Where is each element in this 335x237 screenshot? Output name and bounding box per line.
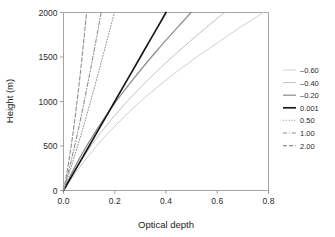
x-tick-label: 0.2 xyxy=(109,196,121,206)
legend-label-0.50: 0.50 xyxy=(300,116,315,125)
x-tick-label: 0.8 xyxy=(263,196,275,206)
y-tick-label: 1000 xyxy=(39,97,58,107)
y-tick-label: 2000 xyxy=(39,8,58,18)
y-tick-label: 500 xyxy=(43,141,57,151)
optical-depth-height-chart: 0.00.20.40.60.8 0500100015002000 Optical… xyxy=(0,0,335,237)
y-tick-label: 0 xyxy=(53,186,58,196)
y-tick-label: 1500 xyxy=(39,52,58,62)
legend-label--0.40: –0.40 xyxy=(300,79,319,88)
legend-label-0.001: 0.001 xyxy=(300,104,319,113)
x-axis-label: Optical depth xyxy=(138,219,194,230)
y-axis-label: Height (m) xyxy=(4,79,15,123)
chart-figure: 0.00.20.40.60.8 0500100015002000 Optical… xyxy=(0,0,335,237)
legend-label-2.00: 2.00 xyxy=(300,142,315,151)
legend-label--0.20: –0.20 xyxy=(300,91,319,100)
x-tick-label: 0.4 xyxy=(160,196,172,206)
legend-label-1.00: 1.00 xyxy=(300,129,315,138)
x-tick-label: 0.6 xyxy=(211,196,223,206)
legend-label--0.60: –0.60 xyxy=(300,66,319,75)
x-tick-label: 0.0 xyxy=(58,196,70,206)
